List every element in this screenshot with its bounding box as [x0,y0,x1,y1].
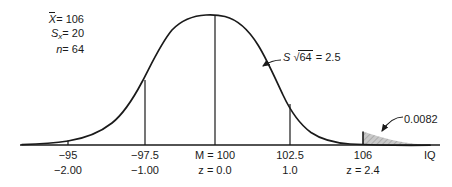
tick-top-label-mean: M = 100 [195,149,235,161]
stat-mean-line: X= 106 [18,13,84,27]
mean-value: = 106 [56,13,84,25]
normal-distribution-figure: X= 106 Sx= 20 n= 64 S √64 = 2.5 0.0082 −… [0,0,452,187]
shaded-tail-region [363,132,421,146]
tick-bottom-label-neg1: −1.00 [131,164,159,176]
stat-n-line: n= 64 [18,43,84,57]
n-value: = 64 [62,43,84,55]
tick-top-label-pos1: 102.5 [276,149,304,161]
sample-statistics-block: X= 106 Sx= 20 n= 64 [18,13,84,57]
tick-bottom-label-pos24: z = 2.4 [346,164,379,176]
se-symbol: S [283,51,290,63]
tick-top-label-pos24: 106 [354,149,372,161]
tick-bottom-label-mean: z = 0.0 [198,164,231,176]
sd-leader-line [263,60,281,66]
stat-sd-line: Sx= 20 [18,27,84,44]
se-radicand: 64 [298,50,312,63]
tail-probability-annotation: 0.0082 [404,113,438,125]
standard-error-annotation: S √64 = 2.5 [283,50,341,63]
se-equals: = 2.5 [316,51,341,63]
x-axis-title: IQ [424,149,436,161]
sd-value: = 20 [62,27,84,39]
tick-bottom-label-neg2: −2.00 [54,164,82,176]
tick-top-label-neg2: −95 [59,149,78,161]
tick-top-label-neg1: −97.5 [131,149,159,161]
tail-leader-line [382,117,403,131]
tick-bottom-label-pos1: 1.0 [282,164,297,176]
mean-symbol: X [49,13,56,27]
